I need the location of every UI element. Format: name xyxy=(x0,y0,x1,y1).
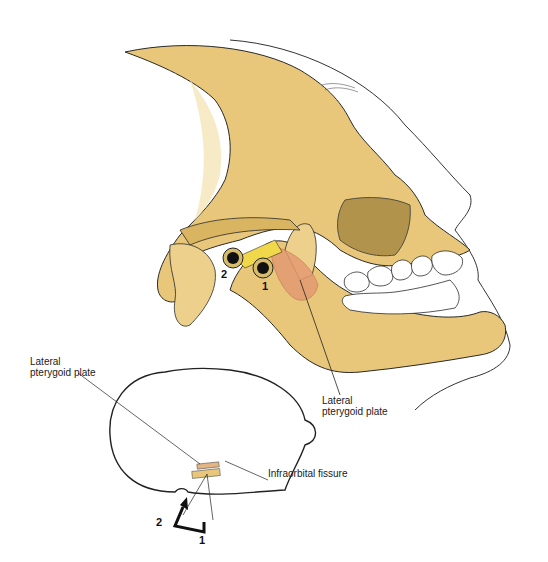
label-infraorbital-fissure: Infraorbital fissure xyxy=(268,468,347,479)
foramen-1 xyxy=(253,258,273,278)
marker-1-main: 1 xyxy=(262,280,268,292)
condyle xyxy=(170,244,216,326)
marker-2-inset: 2 xyxy=(156,516,162,528)
marker-2-main: 2 xyxy=(221,268,227,280)
label-lateral-pterygoid-plate-inset: Lateral pterygoid plate xyxy=(30,356,96,378)
inset-pterygoid-plate xyxy=(197,462,219,469)
foramen-2 xyxy=(223,248,243,268)
label-lateral-pterygoid-plate-main: Lateral pterygoid plate xyxy=(322,395,388,417)
inset-block xyxy=(192,469,221,479)
marker-1-inset: 1 xyxy=(199,534,205,546)
anatomical-figure: 2 1 Lateral pterygoid plate Lateral pter… xyxy=(0,0,548,562)
view-arrow-icon xyxy=(175,507,204,532)
